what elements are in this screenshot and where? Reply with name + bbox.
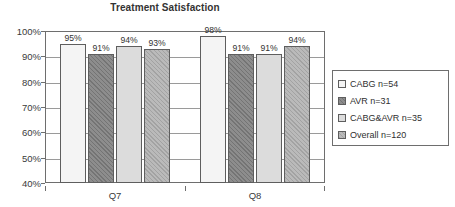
legend-swatch <box>338 80 346 88</box>
legend-swatch <box>338 114 346 122</box>
bar-value-label: 94% <box>275 35 319 45</box>
x-axis-end-tick <box>45 186 46 191</box>
bars-layer: 95%91%94%93%98%91%91%94% <box>45 31 325 183</box>
bar[interactable]: 91% <box>256 54 282 183</box>
bar[interactable]: 94% <box>116 46 142 183</box>
y-tick-label: 70% <box>0 102 41 113</box>
bar-rect <box>60 44 86 183</box>
y-tick-label: 50% <box>0 152 41 163</box>
legend-swatch <box>338 131 346 139</box>
y-axis: 100%90%80%70%60%50%40% <box>0 31 41 183</box>
bar[interactable]: 91% <box>88 54 114 183</box>
legend: CABG n=54AVR n=31CABG&AVR n=35Overall n=… <box>332 70 449 146</box>
bar-rect <box>284 46 310 183</box>
y-tick-label: 100% <box>0 26 41 37</box>
legend-swatch <box>338 97 346 105</box>
x-tick-label: Q8 <box>185 190 325 201</box>
bar-rect <box>116 46 142 183</box>
legend-label: CABG n=54 <box>350 79 398 89</box>
legend-item[interactable]: CABG n=54 <box>338 76 448 92</box>
bar-rect <box>256 54 282 183</box>
legend-label: Overall n=120 <box>350 130 406 140</box>
bar-value-label: 98% <box>191 25 235 35</box>
y-tick-label: 90% <box>0 51 41 62</box>
x-tick-label: Q7 <box>45 190 185 201</box>
x-axis-end-tick <box>324 186 325 191</box>
y-tick-mark <box>41 183 45 184</box>
bar[interactable]: 93% <box>144 49 170 183</box>
bar[interactable]: 98% <box>200 36 226 183</box>
bar-value-label: 93% <box>135 38 179 48</box>
legend-label: AVR n=31 <box>350 96 391 106</box>
legend-label: CABG&AVR n=35 <box>350 113 422 123</box>
bar-value-label: 95% <box>51 33 95 43</box>
x-axis: Q7Q8 <box>45 186 325 204</box>
legend-item[interactable]: Overall n=120 <box>338 127 448 143</box>
bar[interactable]: 95% <box>60 44 86 183</box>
bar[interactable]: 94% <box>284 46 310 183</box>
legend-item[interactable]: CABG&AVR n=35 <box>338 110 448 126</box>
bar-rect <box>144 49 170 183</box>
bar-rect <box>228 54 254 183</box>
y-tick-label: 80% <box>0 76 41 87</box>
legend-item[interactable]: AVR n=31 <box>338 93 448 109</box>
bar-rect <box>200 36 226 183</box>
treatment-satisfaction-chart: Treatment Satisfaction 100%90%80%70%60%5… <box>0 0 455 207</box>
bar-rect <box>88 54 114 183</box>
bar[interactable]: 91% <box>228 54 254 183</box>
y-tick-label: 60% <box>0 127 41 138</box>
y-tick-label: 40% <box>0 178 41 189</box>
chart-title: Treatment Satisfaction <box>0 2 330 13</box>
